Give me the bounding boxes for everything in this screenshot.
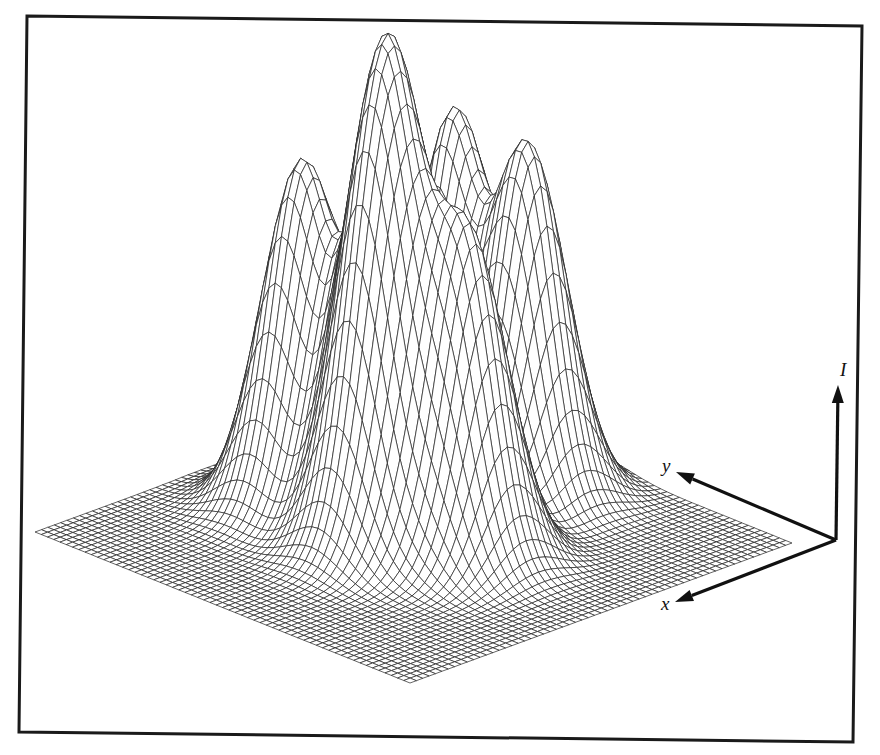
x-axis-arrowhead-icon xyxy=(675,590,694,602)
y-axis-arrowhead-icon xyxy=(676,472,695,485)
intensity-axis-label: I xyxy=(839,359,848,380)
x-axis-label: x xyxy=(660,593,670,614)
surface-plot-figure: I y x xyxy=(0,0,880,755)
y-axis-label: y xyxy=(660,455,671,476)
wireframe-surface xyxy=(35,33,792,683)
intensity-axis-arrow xyxy=(836,403,838,540)
intensity-axis-arrowhead-icon xyxy=(832,385,844,403)
